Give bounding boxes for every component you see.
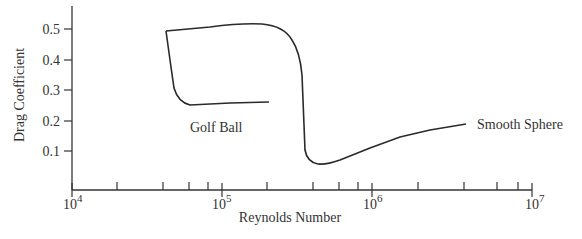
y-axis-title: Drag Coefficient: [12, 48, 27, 142]
y-tick-label: 0.4: [43, 53, 61, 68]
y-ticks: [64, 29, 72, 151]
y-tick-label: 0.2: [43, 114, 61, 129]
y-tick-label: 0.1: [43, 144, 61, 159]
x-tick-label-1e7: 107: [525, 192, 545, 212]
y-tick-label: 0.5: [43, 22, 61, 37]
smooth-sphere-curve: [166, 24, 466, 164]
x-tick-label-1e4: 104: [63, 192, 83, 212]
x-tick-label-1e6: 106: [363, 192, 383, 212]
y-tick-labels: 0.1 0.2 0.3 0.4 0.5: [43, 22, 61, 159]
y-tick-label: 0.3: [43, 83, 61, 98]
golf-ball-label: Golf Ball: [190, 120, 243, 135]
x-axis-title: Reynolds Number: [239, 210, 342, 225]
x-tick-labels: 104 105 106 107: [63, 192, 545, 212]
golf-ball-curve: [166, 31, 269, 105]
axes: [72, 6, 532, 190]
drag-coefficient-chart: 0.1 0.2 0.3 0.4 0.5 104 105 106: [0, 0, 582, 239]
smooth-sphere-label: Smooth Sphere: [477, 117, 563, 132]
